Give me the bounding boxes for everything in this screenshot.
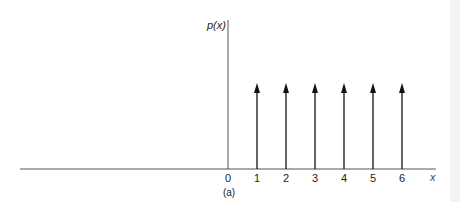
arrowhead-icon	[283, 83, 289, 93]
x-tick-label: 3	[312, 173, 318, 184]
arrowhead-icon	[341, 83, 347, 93]
arrowhead-icon	[312, 83, 318, 93]
x-tick-label: 4	[341, 173, 347, 184]
x-tick-label: 1	[254, 173, 260, 184]
arrowhead-icon	[370, 83, 376, 93]
x-tick-label: 2	[283, 173, 289, 184]
x-axis-label: x	[430, 172, 436, 183]
arrowhead-icon	[254, 83, 260, 93]
x-tick-label: 0	[225, 173, 231, 184]
arrowhead-icon	[399, 83, 405, 93]
figure-caption: (a)	[223, 188, 235, 198]
x-tick-label: 5	[370, 173, 376, 184]
x-tick-label: 6	[399, 173, 405, 184]
impulse-arrows	[254, 83, 405, 169]
y-axis-label: p(x)	[207, 20, 226, 31]
